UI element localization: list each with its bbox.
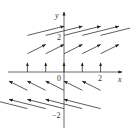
- vector-arrow: [27, 45, 45, 54]
- vector-arrow: [64, 99, 101, 108]
- vector-arrow: [27, 81, 45, 90]
- y-tick-label-neg2: −2: [52, 111, 61, 120]
- vector-arrow: [46, 81, 64, 90]
- vector-arrow: [101, 26, 130, 35]
- vector-arrow: [64, 81, 82, 90]
- y-axis-label: y: [54, 11, 59, 20]
- vector-arrow: [64, 45, 82, 54]
- vector-arrow: [9, 81, 27, 90]
- vector-arrow: [27, 99, 64, 108]
- vector-arrow: [64, 26, 101, 35]
- vector-arrows: [0, 26, 130, 108]
- origin-label: 0: [57, 74, 61, 83]
- vector-arrow: [9, 99, 46, 108]
- vector-arrow: [82, 45, 100, 54]
- vector-field-diagram: x y 0 2 2 −2: [0, 0, 130, 132]
- vector-arrow: [101, 45, 119, 54]
- x-tick-label-2: 2: [98, 74, 102, 83]
- y-tick-label-2: 2: [57, 33, 61, 42]
- vector-arrow: [46, 45, 64, 54]
- x-axis-label: x: [117, 75, 122, 84]
- vector-arrow: [82, 26, 119, 35]
